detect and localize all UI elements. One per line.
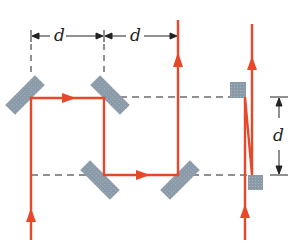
mirror-small-bottom [248, 175, 263, 190]
mirror-bottom-left [80, 160, 120, 200]
arrow-right-bottom [136, 170, 150, 180]
beam-arrows [26, 52, 257, 222]
mirror-small-top [230, 82, 246, 98]
mirror-bottom-right [160, 160, 200, 200]
arrow-up-far-right-bottom [240, 204, 250, 218]
mirror-top-left [5, 75, 45, 115]
beam-left-path [31, 20, 178, 240]
arrow-right-top [62, 93, 76, 103]
reference-dashes [31, 97, 248, 175]
arrow-up-right-column [173, 52, 183, 67]
arrow-up-left-bottom [26, 208, 36, 222]
light-beams [31, 20, 252, 240]
arrow-up-far-right-top [247, 56, 257, 70]
mirror-top-right [90, 75, 130, 115]
label-d-top-left: d [54, 25, 65, 45]
label-d-top-right: d [130, 25, 141, 45]
mirrors [5, 75, 263, 200]
mirror-diagram: d d d [0, 0, 300, 250]
top-dimension [31, 30, 177, 72]
label-d-side: d [273, 125, 284, 145]
